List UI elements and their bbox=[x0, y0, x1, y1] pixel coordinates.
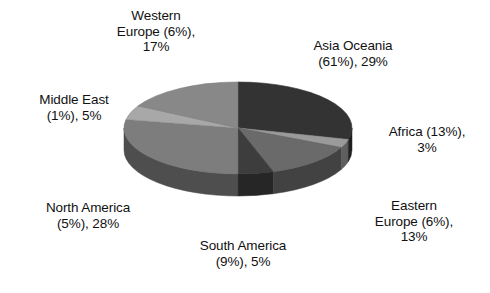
slice-label-north-america: North America (5%), 28% bbox=[16, 200, 160, 231]
slice-label-africa: Africa (13%), 3% bbox=[364, 124, 490, 155]
slice-label-western-europe: Western Europe (6%), 17% bbox=[86, 8, 226, 55]
slice-label-eastern-europe: Eastern Europe (6%), 13% bbox=[352, 198, 476, 245]
pie-slices-group bbox=[124, 82, 352, 196]
slice-label-middle-east: Middle East (1%), 5% bbox=[10, 92, 138, 123]
slice-label-asia-oceania: Asia Oceania (61%), 29% bbox=[278, 38, 428, 69]
slice-label-south-america: South America (9%), 5% bbox=[168, 238, 318, 269]
pie-chart: Western Europe (6%), 17% Asia Oceania (6… bbox=[0, 0, 490, 293]
